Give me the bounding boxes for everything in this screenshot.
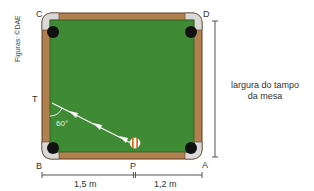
figure-credit: Figuras: ©DAE (14, 15, 21, 62)
pocket-a (185, 142, 197, 154)
table-width-label-line2: da mesa (226, 91, 304, 102)
dimension-pa-label: 1,2 m (154, 179, 177, 189)
table-felt (50, 20, 194, 152)
point-label-p: P (130, 162, 136, 171)
pocket-b (47, 142, 59, 154)
point-label-b: B (36, 162, 42, 171)
dimension-bp-label: 1,5 m (74, 179, 97, 189)
point-label-a: A (202, 161, 208, 170)
point-label-d: D (203, 10, 210, 19)
table-width-label: largura do tampo da mesa (226, 80, 304, 102)
table-width-label-line1: largura do tampo (226, 80, 304, 91)
pocket-c (47, 26, 59, 38)
pocket-d (185, 26, 197, 38)
point-label-t: T (32, 95, 38, 104)
billiard-diagram: Figuras: ©DAE C D T B P A 60° largura do… (0, 0, 314, 191)
point-label-c: C (36, 10, 43, 19)
striped-ball (130, 138, 140, 148)
angle-label: 60° (56, 120, 68, 128)
